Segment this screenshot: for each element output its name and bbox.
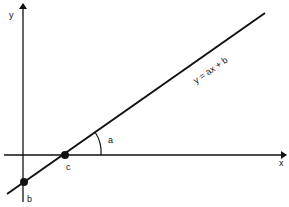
function-line: [7, 13, 265, 194]
angle-label: a: [108, 135, 113, 145]
y-intercept-label: b: [27, 194, 32, 204]
x-intercept-point: [61, 151, 69, 159]
y-axis-label: y: [9, 10, 14, 20]
x-intercept-label: c: [66, 162, 71, 172]
x-axis-label: x: [279, 158, 284, 168]
y-intercept-point: [20, 178, 28, 186]
linear-function-diagram: x y y = ax + b a b c: [0, 0, 289, 207]
angle-arc: [95, 132, 101, 155]
